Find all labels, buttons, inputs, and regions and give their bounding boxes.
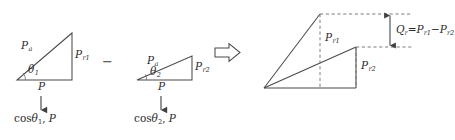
triangle-two-angle-label: θ2 bbox=[150, 66, 161, 77]
triangle-two-base-label: P bbox=[158, 81, 165, 92]
result-lower-label: Pr2 bbox=[361, 60, 375, 71]
triangle-one-annotation: cosθ1, P bbox=[14, 112, 56, 124]
triangle-two-outline bbox=[137, 56, 192, 80]
triangle-one-hypotenuse-label: Pa bbox=[21, 40, 32, 51]
triangle-two-vertical-label: Pr2 bbox=[195, 61, 209, 72]
result-upper-label: Pr1 bbox=[325, 32, 339, 43]
triangle-one-angle-label: θ1 bbox=[28, 64, 39, 75]
triangle-one-vertical-label: Pr1 bbox=[75, 49, 89, 60]
triangle-two-hypotenuse-label: Pa bbox=[147, 55, 158, 66]
implies-arrow-icon bbox=[215, 44, 240, 62]
triangle-one-base-label: P bbox=[38, 81, 45, 92]
combined-figure-outline bbox=[264, 14, 412, 88]
diagram-vector-layer bbox=[0, 0, 455, 140]
minus-operator: − bbox=[102, 54, 113, 69]
triangle-two-annotation: cosθ2, P bbox=[134, 112, 176, 124]
diagram-canvas: Pa Pr1 P θ1 cosθ1, P − Pa Pr2 P θ2 cosθ2… bbox=[0, 0, 455, 140]
result-equation: Qr=Pr1−Pr2 bbox=[396, 23, 454, 35]
